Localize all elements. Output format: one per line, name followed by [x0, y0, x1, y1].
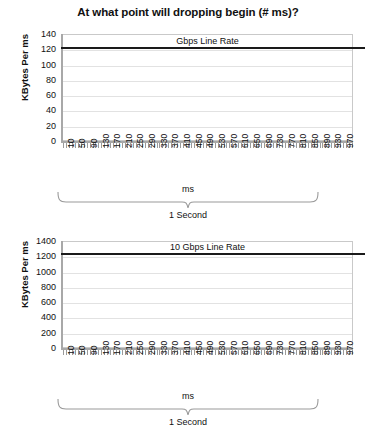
x-tick-label: 250: [136, 134, 145, 148]
gridline: [62, 50, 352, 51]
chart-1-span-label: 1 Second: [0, 210, 376, 220]
chart-1-y-tick: 80: [22, 76, 56, 85]
x-tick-label: 690: [265, 341, 274, 355]
x-tick-label: 210: [125, 341, 134, 355]
x-tick-label: 50: [78, 346, 87, 355]
gridline: [62, 127, 352, 128]
x-tick-label: 410: [183, 134, 192, 148]
chart-2-plot-area: [62, 241, 353, 348]
x-tick-label: 370: [171, 134, 180, 148]
tick-mark: [63, 350, 64, 355]
x-tick-label: 650: [253, 134, 262, 148]
x-tick-label: 90: [90, 139, 99, 148]
x-tick-label: 530: [218, 134, 227, 148]
x-tick-label: 890: [323, 134, 332, 148]
gridline: [62, 257, 352, 258]
tick-mark: [308, 350, 309, 355]
gridline: [62, 81, 352, 82]
x-tick-label: 850: [311, 134, 320, 148]
gridline: [62, 334, 352, 335]
chart-1-x-tick-labels: 1050901301702102502903303704104504905305…: [62, 148, 353, 182]
gridline: [62, 273, 352, 274]
x-tick-label: 170: [113, 134, 122, 148]
gridline: [62, 318, 352, 319]
page-title: At what point will dropping begin (# ms)…: [0, 6, 376, 18]
x-tick-label: 210: [125, 134, 134, 148]
gridline: [62, 111, 352, 112]
chart-2-y-axis: [61, 241, 63, 349]
x-tick-label: 130: [102, 341, 111, 355]
x-tick-label: 570: [230, 341, 239, 355]
x-tick-label: 690: [265, 134, 274, 148]
chart-2-y-tick: 400: [16, 313, 56, 322]
x-tick-label: 130: [102, 134, 111, 148]
x-tick-label: 730: [276, 134, 285, 148]
x-tick-label: 50: [78, 139, 87, 148]
chart-2-y-tick: 1000: [16, 268, 56, 277]
x-tick-label: 170: [113, 341, 122, 355]
x-tick-label: 490: [206, 341, 215, 355]
chart-2-y-tick: 0: [16, 344, 56, 353]
x-tick-label: 250: [136, 341, 145, 355]
x-tick-label: 290: [148, 341, 157, 355]
x-tick-label: 930: [334, 134, 343, 148]
chart-1-line-rate-threshold: [61, 47, 365, 49]
chart-1-plot-area: [62, 34, 353, 141]
gridline: [62, 96, 352, 97]
chart-1-y-tick: 140: [22, 30, 56, 39]
chart-1-y-tick: 20: [22, 122, 56, 131]
tick-mark: [145, 143, 146, 148]
gridline: [62, 66, 352, 67]
x-tick-label: 490: [206, 134, 215, 148]
x-tick-label: 10: [67, 346, 76, 355]
chart-1: KBytes Per ms 140 120 100 80 60 40 20 0 …: [0, 28, 376, 203]
x-tick-label: 610: [241, 341, 250, 355]
chart-2-x-tick-labels: 1050901301702102502903303704104504905305…: [62, 355, 353, 389]
tick-mark: [145, 350, 146, 355]
chart-2-line-rate-label: 10 Gbps Line Rate: [62, 242, 353, 252]
x-tick-label: 970: [346, 134, 355, 148]
chart-1-y-tick: 100: [22, 61, 56, 70]
chart-2-y-tick: 800: [16, 283, 56, 292]
x-tick-label: 850: [311, 341, 320, 355]
chart-1-y-tick: 120: [22, 45, 56, 54]
chart-2-y-tick: 200: [16, 329, 56, 338]
x-tick-label: 410: [183, 341, 192, 355]
chart-2-span-label: 1 Second: [0, 417, 376, 427]
x-tick-label: 450: [195, 341, 204, 355]
tick-mark: [63, 143, 64, 148]
x-tick-label: 770: [288, 134, 297, 148]
chart-2-span-brace: [0, 398, 376, 418]
x-tick-label: 10: [67, 139, 76, 148]
x-tick-label: 930: [334, 341, 343, 355]
x-tick-label: 970: [346, 341, 355, 355]
x-tick-label: 90: [90, 346, 99, 355]
x-tick-label: 450: [195, 134, 204, 148]
chart-2: KBytes Per ms 1400 1200 1000 800 600 400…: [0, 235, 376, 410]
chart-1-span-brace: [0, 191, 376, 211]
chart-2-line-rate-threshold: [61, 253, 365, 255]
x-tick-label: 810: [299, 134, 308, 148]
chart-1-y-tick: 0: [22, 137, 56, 146]
chart-1-y-tick: 60: [22, 91, 56, 100]
x-tick-label: 330: [160, 341, 169, 355]
chart-2-y-tick: 600: [16, 298, 56, 307]
chart-2-y-tick: 1400: [16, 237, 56, 246]
chart-2-y-tick: 1200: [16, 252, 56, 261]
x-tick-label: 730: [276, 341, 285, 355]
x-tick-label: 770: [288, 341, 297, 355]
x-tick-label: 290: [148, 134, 157, 148]
x-tick-label: 610: [241, 134, 250, 148]
chart-1-y-tick: 40: [22, 106, 56, 115]
x-tick-label: 810: [299, 341, 308, 355]
x-tick-label: 530: [218, 341, 227, 355]
gridline: [62, 288, 352, 289]
chart-1-y-axis: [61, 34, 63, 142]
x-tick-label: 650: [253, 341, 262, 355]
x-tick-label: 330: [160, 134, 169, 148]
chart-1-line-rate-label: Gbps Line Rate: [62, 36, 353, 46]
x-tick-label: 890: [323, 341, 332, 355]
tick-mark: [308, 143, 309, 148]
gridline: [62, 303, 352, 304]
x-tick-label: 570: [230, 134, 239, 148]
